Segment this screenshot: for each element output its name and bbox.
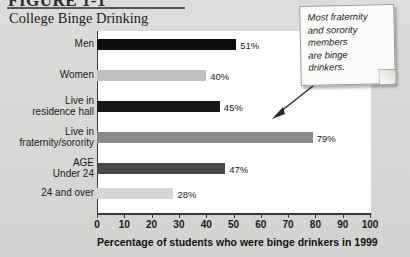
callout-arrow-icon — [268, 80, 320, 120]
bar-0: 51% — [97, 39, 236, 50]
category-label-0: Men — [0, 38, 94, 49]
x-axis-title: Percentage of students who were binge dr… — [97, 236, 370, 248]
x-axis-tick — [234, 213, 235, 218]
x-axis-tick — [97, 213, 98, 218]
callout-note-text: Most fraternity and sorority members are… — [307, 10, 388, 75]
x-axis-tick-label: 0 — [94, 219, 100, 230]
x-axis-tick — [179, 213, 180, 218]
figure-page: FIGURE 1-1 College Binge Drinking 51%40%… — [0, 0, 410, 257]
bar-2: 45% — [97, 101, 220, 112]
x-axis-tick-label: 10 — [119, 219, 130, 230]
x-axis-tick — [152, 213, 153, 218]
bar-1: 40% — [97, 70, 206, 81]
x-axis-tick-label: 20 — [146, 219, 157, 230]
bar-value-label: 28% — [177, 188, 196, 199]
x-axis-tick-label: 30 — [173, 219, 184, 230]
figure-divider-rule — [7, 7, 185, 9]
category-label-3: Live in fraternity/sorority — [0, 126, 94, 148]
x-axis-tick — [343, 213, 344, 218]
x-axis-tick-label: 80 — [310, 219, 321, 230]
bar-4: 47% — [97, 163, 225, 174]
x-axis-tick-label: 70 — [283, 219, 294, 230]
callout-curl-corner — [379, 69, 396, 84]
category-label-4: AGE Under 24 — [0, 157, 94, 179]
bar-3: 79% — [97, 132, 313, 143]
bar-5: 28% — [97, 188, 173, 199]
category-label-2: Live in residence hall — [0, 95, 94, 117]
x-axis-tick-label: 100 — [362, 219, 379, 230]
x-axis-tick — [124, 213, 125, 218]
x-axis-tick — [315, 213, 316, 218]
x-axis-tick-label: 50 — [228, 219, 239, 230]
x-axis-tick — [370, 213, 371, 218]
bar-value-label: 79% — [317, 132, 336, 143]
bar-value-label: 45% — [224, 101, 243, 112]
x-axis-tick-label: 60 — [255, 219, 266, 230]
category-label-5: 24 and over — [0, 187, 94, 198]
x-axis-tick-label: 40 — [201, 219, 212, 230]
figure-title: College Binge Drinking — [9, 10, 148, 27]
category-label-1: Women — [0, 69, 94, 80]
bar-value-label: 51% — [240, 39, 259, 50]
bar-value-label: 40% — [210, 70, 229, 81]
x-axis-tick — [206, 213, 207, 218]
bar-value-label: 47% — [229, 163, 248, 174]
x-axis-tick-label: 90 — [337, 219, 348, 230]
x-axis-tick — [261, 213, 262, 218]
x-axis-tick — [288, 213, 289, 218]
callout-note: Most fraternity and sorority members are… — [299, 4, 396, 86]
